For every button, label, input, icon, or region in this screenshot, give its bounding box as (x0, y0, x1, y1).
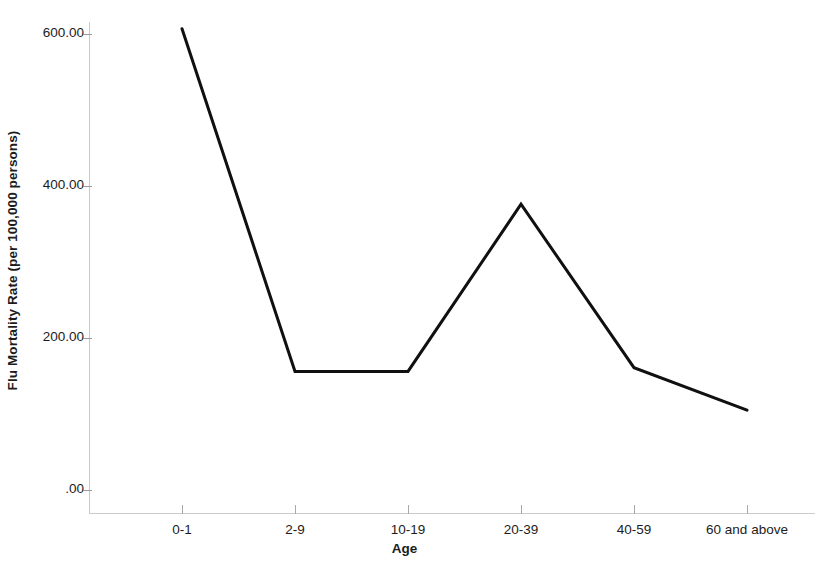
flu-mortality-line-chart: Flu Mortality Rate (per 100,000 persons)… (0, 0, 825, 563)
x-axis-title: Age (0, 541, 825, 556)
series-line-layer (0, 0, 825, 563)
x-axis-title-text: Age (392, 541, 418, 556)
series-line-flu-mortality-rate (182, 29, 747, 411)
